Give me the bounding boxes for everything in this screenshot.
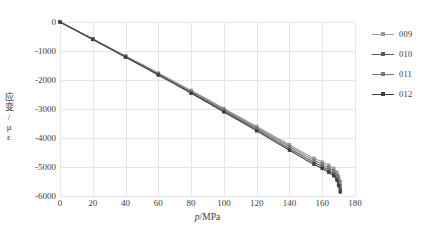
x-axis-tick-labels: 020406080100120140160180 (60, 199, 355, 213)
data-point-marker (288, 145, 291, 148)
data-point-marker (255, 126, 258, 129)
x-tick-label: 140 (283, 199, 297, 208)
series-011 (58, 20, 342, 187)
legend: 009010011012 (372, 24, 430, 104)
data-point-marker (327, 171, 330, 174)
x-tick-label: 180 (348, 199, 362, 208)
data-point-marker (312, 163, 315, 166)
legend-swatch (372, 29, 394, 39)
series-010 (58, 20, 342, 190)
series-line (60, 22, 340, 192)
chart-figure: 0-1000-2000-3000-4000-5000-6000 应变/µε 02… (0, 0, 430, 237)
data-point-marker (157, 73, 160, 76)
legend-label: 009 (399, 29, 412, 39)
legend-item-009[interactable]: 009 (372, 24, 430, 44)
y-tick-label: -4000 (35, 134, 56, 143)
data-point-marker (321, 163, 324, 166)
data-point-marker (332, 174, 335, 177)
data-point-marker (337, 184, 340, 187)
data-point-marker (124, 55, 127, 58)
x-tick-label: 0 (58, 199, 63, 208)
legend-marker-icon (381, 52, 385, 56)
y-axis-title-char: 应 (2, 92, 16, 102)
series-009 (58, 20, 342, 183)
data-point-marker (335, 179, 338, 182)
y-axis-title-char: ε (2, 132, 16, 142)
y-tick-label: -6000 (35, 192, 56, 201)
series-svg (60, 22, 355, 196)
y-tick-label: -3000 (35, 105, 56, 114)
y-axis-title-char: / (2, 112, 16, 122)
data-point-marker (312, 159, 315, 162)
gridline-horizontal (60, 196, 355, 197)
x-tick-label: 60 (154, 199, 163, 208)
x-tick-label: 160 (315, 199, 329, 208)
y-tick-label: -1000 (35, 47, 56, 56)
x-tick-label: 80 (187, 199, 196, 208)
x-tick-label: 100 (217, 199, 231, 208)
legend-item-010[interactable]: 010 (372, 44, 430, 64)
data-point-marker (288, 148, 291, 151)
data-point-marker (91, 38, 94, 41)
y-axis-title: 应变/µε (2, 92, 16, 142)
series-line (60, 22, 340, 185)
gridline-vertical (355, 22, 356, 196)
series-line (60, 22, 340, 182)
y-axis-title-char: µ (2, 122, 16, 132)
legend-marker-icon (381, 72, 385, 76)
y-axis-title-char: 变 (2, 102, 16, 112)
legend-marker-icon (381, 32, 385, 36)
legend-item-011[interactable]: 011 (372, 64, 430, 84)
y-tick-label: -2000 (35, 76, 56, 85)
data-point-marker (327, 166, 330, 169)
x-axis-title: p/MPa (60, 212, 355, 222)
data-point-marker (321, 167, 324, 170)
y-tick-label: -5000 (35, 163, 56, 172)
legend-label: 012 (399, 89, 412, 99)
x-tick-label: 120 (250, 199, 264, 208)
series-line (60, 22, 340, 189)
data-point-marker (255, 129, 258, 132)
legend-label: 010 (399, 49, 412, 59)
data-point-marker (335, 173, 338, 176)
data-point-marker (58, 20, 61, 23)
x-tick-label: 20 (88, 199, 97, 208)
legend-item-012[interactable]: 012 (372, 84, 430, 104)
y-tick-label: 0 (52, 18, 57, 27)
data-point-marker (332, 169, 335, 172)
legend-marker-icon (381, 92, 385, 96)
data-lines-layer (60, 22, 355, 196)
legend-swatch (372, 69, 394, 79)
legend-swatch (372, 89, 394, 99)
legend-swatch (372, 49, 394, 59)
data-point-marker (339, 190, 342, 193)
legend-label: 011 (399, 69, 412, 79)
series-012 (58, 20, 342, 193)
x-tick-label: 40 (121, 199, 130, 208)
data-point-marker (189, 92, 192, 95)
plot-area (60, 22, 355, 196)
x-axis-unit: /MPa (200, 212, 221, 222)
data-point-marker (222, 110, 225, 113)
